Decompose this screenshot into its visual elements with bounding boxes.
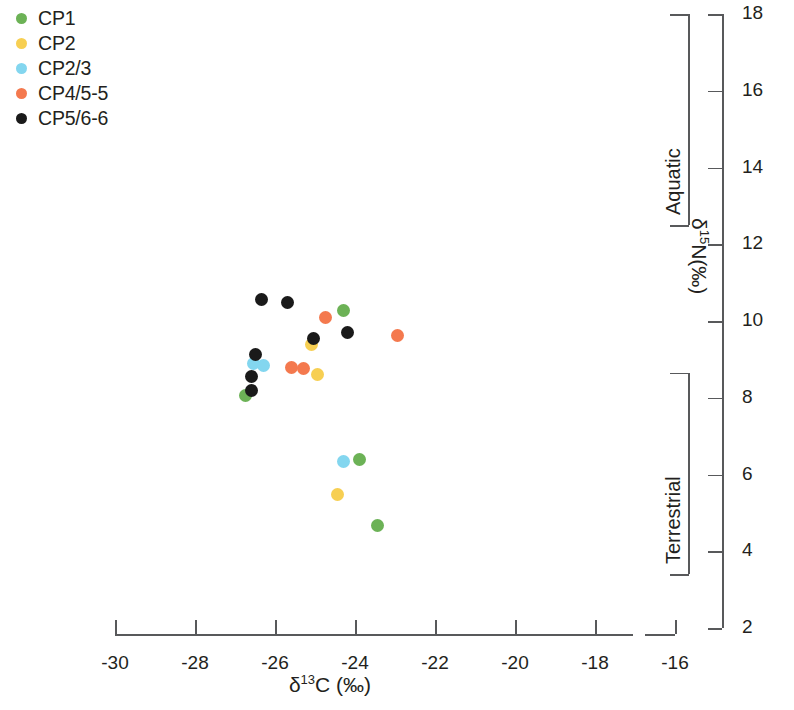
y-axis-tick xyxy=(708,398,722,400)
x-axis-tick xyxy=(675,620,677,634)
data-point xyxy=(307,332,320,345)
data-point xyxy=(255,293,268,306)
y-axis-tick-label: 8 xyxy=(742,386,753,408)
y-axis-line xyxy=(722,14,724,628)
y-axis-title-superscript: 15 xyxy=(697,230,712,244)
y-axis-tick xyxy=(708,321,722,323)
y-axis-tick-label: 14 xyxy=(742,156,763,178)
data-point xyxy=(353,453,366,466)
y-axis-tick-label: 4 xyxy=(742,539,753,561)
data-point xyxy=(257,359,270,372)
x-axis-tick-label: -26 xyxy=(245,652,305,674)
x-axis-line-stub xyxy=(645,634,675,636)
data-point xyxy=(337,455,350,468)
x-axis-tick xyxy=(115,620,117,634)
x-axis-tick xyxy=(275,620,277,634)
y-axis-tick xyxy=(708,91,722,93)
data-point xyxy=(319,311,332,324)
x-axis-line xyxy=(115,634,633,636)
y-axis-tick-label: 6 xyxy=(742,463,753,485)
data-point xyxy=(311,368,324,381)
data-point xyxy=(391,329,404,342)
bracket-label: Terrestrial xyxy=(662,476,685,564)
x-axis-tick-label: -28 xyxy=(165,652,225,674)
bracket-spine xyxy=(688,373,690,574)
x-axis-tick-label: -18 xyxy=(565,652,625,674)
bracket-label: Aquatic xyxy=(662,148,685,215)
y-axis-tick-label: 12 xyxy=(742,232,763,254)
bracket-cap-top xyxy=(670,373,689,375)
y-axis-tick xyxy=(708,168,722,170)
data-point xyxy=(371,519,384,532)
y-axis-tick xyxy=(708,475,722,477)
bracket-cap-top xyxy=(670,14,689,16)
x-axis-tick-label: -16 xyxy=(645,652,705,674)
y-axis-title-delta: δ xyxy=(688,218,711,230)
x-axis-tick xyxy=(435,620,437,634)
y-axis-title-rest: N(‰) xyxy=(688,244,711,294)
x-axis-tick-label: -20 xyxy=(485,652,545,674)
y-axis-title: δ15N(‰) xyxy=(687,218,712,294)
bracket-spine xyxy=(688,14,690,225)
y-axis-tick xyxy=(708,14,722,16)
x-axis-tick xyxy=(195,620,197,634)
data-point xyxy=(297,362,310,375)
x-axis-tick-label: -22 xyxy=(405,652,465,674)
x-axis-title-rest: C (‰) xyxy=(315,673,371,696)
x-axis-tick xyxy=(595,620,597,634)
data-point xyxy=(337,304,350,317)
y-axis-tick xyxy=(708,551,722,553)
y-axis-tick xyxy=(708,628,722,630)
x-axis-title: δ13C (‰) xyxy=(0,672,660,697)
x-axis-tick xyxy=(355,620,357,634)
data-point xyxy=(245,370,258,383)
x-axis-tick xyxy=(515,620,517,634)
data-point xyxy=(245,384,258,397)
data-point xyxy=(281,296,294,309)
x-axis-title-delta: δ xyxy=(289,673,301,696)
y-axis-tick-label: 16 xyxy=(742,79,763,101)
bracket-cap-bottom xyxy=(670,574,689,576)
x-axis-title-superscript: 13 xyxy=(301,672,315,687)
scatter-plot-figure: CP1CP2CP2/3CP4/5-5CP5/6-6 -30-28-26-24-2… xyxy=(0,0,794,710)
x-axis-tick-label: -30 xyxy=(85,652,145,674)
y-axis-tick-label: 2 xyxy=(742,616,753,638)
data-point xyxy=(285,361,298,374)
y-axis-tick-label: 18 xyxy=(742,2,763,24)
data-point xyxy=(331,488,344,501)
x-axis-tick-label: -24 xyxy=(325,652,385,674)
y-axis-tick-label: 10 xyxy=(742,309,763,331)
data-point xyxy=(341,326,354,339)
plot-area: -30-28-26-24-22-20-18-1624681012141618 A… xyxy=(0,0,794,710)
